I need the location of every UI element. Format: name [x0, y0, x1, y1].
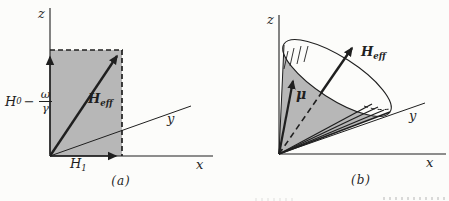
figure-drawing	[0, 0, 449, 201]
scan-artifact	[255, 198, 297, 201]
x-axis-label: x	[196, 158, 203, 171]
x-axis-label: x	[426, 156, 433, 169]
heff-label-sub: eff	[373, 51, 385, 61]
h1-label-sub: 1	[81, 163, 86, 173]
heff-label: Heff	[88, 92, 113, 105]
fraction-numerator: ω	[38, 88, 53, 101]
scan-artifact	[383, 197, 445, 200]
h0-minus-omega-gamma-label: H0 − ω γ	[5, 88, 53, 114]
panel-b-caption: (b)	[351, 174, 371, 186]
fraction-denominator: γ	[39, 101, 52, 114]
heff-label-sub: eff	[100, 98, 112, 108]
textbook-figure: z x y Heff H1 H0 − ω γ (a) z x y Heff μ …	[0, 0, 449, 201]
y-axis-label: y	[409, 109, 416, 122]
minus-sign: −	[24, 95, 35, 108]
mu-label: μ	[296, 87, 306, 101]
h1-label: H1	[70, 157, 87, 170]
h0-symbol: H	[5, 95, 16, 108]
h1-label-base: H	[70, 156, 81, 171]
heff-label-base: H	[361, 44, 373, 59]
z-axis-label: z	[267, 13, 274, 26]
y-axis-label: y	[167, 112, 174, 125]
heff-label-base: H	[88, 91, 100, 106]
panel-a-caption: (a)	[111, 175, 131, 187]
z-axis-label: z	[38, 7, 45, 20]
heff-label: Heff	[361, 45, 386, 58]
panel-b	[273, 15, 446, 154]
omega-over-gamma-fraction: ω γ	[38, 88, 53, 114]
panel-a	[50, 8, 213, 156]
